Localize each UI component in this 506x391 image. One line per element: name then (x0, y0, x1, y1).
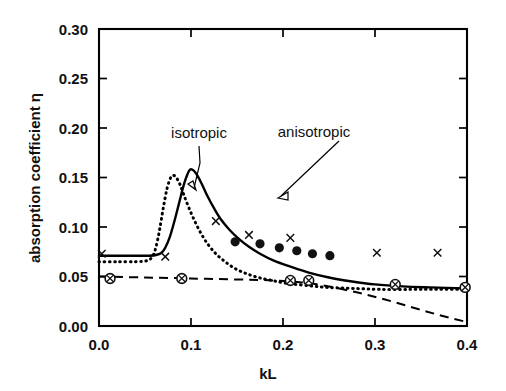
x-axis-title: kL (259, 365, 277, 382)
y-tick-label: 0.30 (59, 21, 88, 38)
data-point-circled-cross (285, 276, 295, 286)
data-point-filled-circle (308, 249, 317, 258)
y-tick-label: 0.00 (59, 318, 88, 335)
data-point-circled-cross (105, 274, 115, 284)
x-tick-label: 0.4 (457, 336, 479, 353)
chart-svg: 0.000.050.100.150.200.250.30 0.00.10.20.… (0, 0, 506, 391)
y-tick-label: 0.25 (59, 70, 88, 87)
data-point-circled-cross (177, 274, 187, 284)
x-tick-label: 0.2 (273, 336, 294, 353)
y-axis-title: absorption coefficient η (26, 93, 43, 263)
annotation-anisotropic: anisotropic (278, 123, 351, 140)
x-tick-label: 0.3 (365, 336, 386, 353)
annotation-isotropic: isotropic (171, 124, 227, 141)
absorption-coefficient-chart: 0.000.050.100.150.200.250.30 0.00.10.20.… (0, 0, 506, 391)
y-tick-label: 0.20 (59, 120, 88, 137)
y-tick-label: 0.10 (59, 219, 88, 236)
x-tick-label: 0.0 (89, 336, 110, 353)
data-point-filled-circle (292, 246, 301, 255)
data-point-circled-cross (390, 280, 400, 290)
data-point-circled-cross (304, 276, 314, 286)
y-tick-label: 0.15 (59, 169, 88, 186)
data-point-circled-cross (460, 282, 470, 292)
x-tick-label: 0.1 (181, 336, 202, 353)
data-point-filled-circle (275, 243, 284, 252)
data-point-filled-circle (231, 237, 240, 246)
y-tick-label: 0.05 (59, 268, 88, 285)
data-point-filled-circle (255, 239, 264, 248)
data-point-filled-circle (325, 251, 334, 260)
